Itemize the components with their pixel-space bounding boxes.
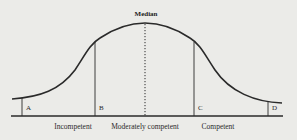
bell-curve-diagram: Median A B C D Incompetent Moderately co…	[0, 0, 297, 140]
region-moderately-competent-label: Moderately competent	[111, 122, 179, 131]
region-competent-label: Competent	[202, 122, 235, 131]
median-label: Median	[135, 10, 158, 18]
point-d-label: D	[272, 104, 277, 112]
bell-curve-figure	[0, 0, 297, 140]
point-a-label: A	[26, 104, 31, 112]
point-c-label: C	[198, 104, 203, 112]
bell-curve-line	[12, 23, 282, 103]
region-incompetent-label: Incompetent	[54, 122, 92, 131]
point-b-label: B	[99, 104, 104, 112]
